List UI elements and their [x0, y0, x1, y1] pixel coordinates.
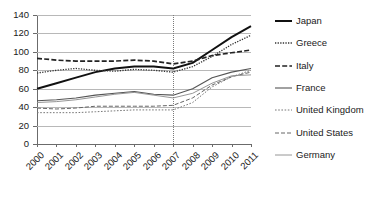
series-line-japan — [37, 26, 251, 89]
y-axis-label: 40 — [3, 102, 29, 112]
legend-item-greece[interactable]: Greece — [275, 36, 327, 50]
legend-label: United States — [296, 128, 353, 138]
y-axis-label: 120 — [3, 28, 29, 38]
legend-label: Germany — [296, 150, 335, 160]
legend-label: France — [296, 83, 326, 93]
legend-item-united-kingdom[interactable]: United Kingdom — [275, 103, 364, 117]
y-axis-label: 0 — [3, 139, 29, 149]
y-axis-label: 60 — [3, 84, 29, 94]
y-axis-label: 100 — [3, 47, 29, 57]
legend-item-italy[interactable]: Italy — [275, 59, 313, 73]
legend-swatch-icon — [275, 61, 292, 71]
x-axis-tick — [173, 144, 174, 147]
plot-area: 020406080100120140 200020012002200320042… — [37, 15, 251, 144]
series-line-france — [37, 68, 251, 100]
legend-item-france[interactable]: France — [275, 81, 326, 95]
x-axis-tick — [37, 144, 38, 147]
legend-label: Italy — [296, 61, 313, 71]
series-line-united-states — [37, 72, 251, 109]
x-axis-tick — [154, 144, 155, 147]
legend-label: United Kingdom — [296, 105, 364, 115]
x-axis-tick — [76, 144, 77, 147]
legend-item-united-states[interactable]: United States — [275, 126, 353, 140]
x-axis-tick — [212, 144, 213, 147]
series-line-italy — [37, 50, 251, 64]
legend-swatch-icon — [275, 105, 292, 115]
legend: JapanGreeceItalyFranceUnited KingdomUnit… — [275, 14, 378, 174]
chart-container: 020406080100120140 200020012002200320042… — [0, 0, 378, 208]
legend-swatch-icon — [275, 16, 292, 26]
y-axis-label: 140 — [3, 10, 29, 20]
annotation-vertical-line-2007 — [173, 15, 174, 144]
legend-item-japan[interactable]: Japan — [275, 14, 322, 28]
legend-label: Japan — [296, 16, 322, 26]
legend-swatch-icon — [275, 150, 292, 160]
legend-item-germany[interactable]: Germany — [275, 148, 335, 162]
x-axis-tick — [115, 144, 116, 147]
legend-swatch-icon — [275, 83, 292, 93]
series-lines — [37, 15, 251, 144]
x-axis-tick — [251, 144, 252, 147]
x-axis-tick — [134, 144, 135, 147]
series-line-united-kingdom — [37, 70, 251, 112]
legend-label: Greece — [296, 38, 327, 48]
x-axis-tick — [232, 144, 233, 147]
y-axis-label: 80 — [3, 65, 29, 75]
x-axis-tick — [56, 144, 57, 147]
x-axis-tick — [95, 144, 96, 147]
y-axis-label: 20 — [3, 121, 29, 131]
legend-swatch-icon — [275, 128, 292, 138]
legend-swatch-icon — [275, 38, 292, 48]
x-axis-tick — [193, 144, 194, 147]
